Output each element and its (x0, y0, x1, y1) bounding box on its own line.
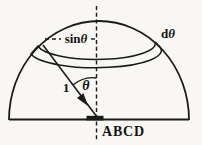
unit-radius-label: 1 (63, 80, 70, 95)
d-theta-symbol: θ (168, 26, 175, 41)
sin-theta-symbol: θ (81, 31, 88, 46)
diagram-canvas: sinθ dθ 1 θ ABCD (0, 0, 202, 145)
base-area-label: ABCD (102, 124, 145, 139)
hemisphere-diagram: sinθ dθ 1 θ ABCD (0, 0, 202, 145)
sin-theta-label: sinθ (65, 31, 88, 46)
base-center-tick (87, 116, 104, 121)
d-theta-label: dθ (161, 26, 175, 41)
sin-theta-prefix: sin (65, 31, 82, 46)
polar-angle-label: θ (82, 78, 90, 93)
